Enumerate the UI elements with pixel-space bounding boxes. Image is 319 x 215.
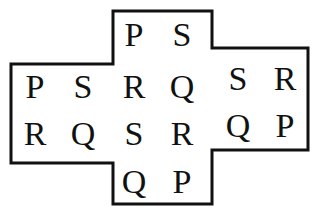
- letter-center-top-right: Q: [165, 70, 199, 104]
- letter-right-bottom-right: P: [268, 109, 302, 143]
- letter-left-bottom-left: R: [18, 117, 52, 151]
- letter-center-bottom-left: S: [117, 117, 151, 151]
- letter-bottom-right: P: [165, 165, 199, 199]
- letter-bottom-left: Q: [117, 165, 151, 199]
- letter-left-top-right: S: [66, 70, 100, 104]
- letter-right-top-left: S: [221, 62, 255, 96]
- letter-left-bottom-right: Q: [66, 117, 100, 151]
- figure-outline-svg: [0, 0, 319, 215]
- letter-left-top-left: P: [18, 70, 52, 104]
- letter-right-bottom-left: Q: [221, 109, 255, 143]
- letter-top-right: S: [165, 18, 199, 52]
- letter-cross-figure: P S P S R Q R Q S R S R Q P Q P: [0, 0, 319, 215]
- letter-top-left: P: [117, 18, 151, 52]
- letter-center-top-left: R: [117, 70, 151, 104]
- letter-right-top-right: R: [268, 62, 302, 96]
- letter-center-bottom-right: R: [165, 117, 199, 151]
